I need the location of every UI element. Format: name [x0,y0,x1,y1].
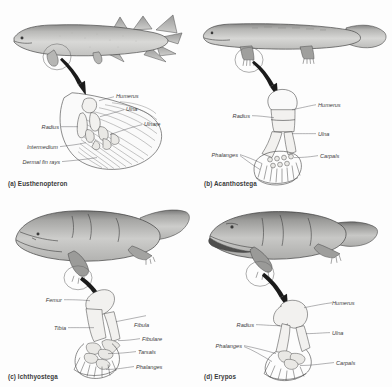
panel-b-illustration: Humerus Ulna Carpals Radius Phalanges [196,0,392,194]
label-humerus: Humerus [318,102,341,108]
erypos-body-illustration [209,211,378,279]
panel-a-caption: (a) Eusthenopteron [8,180,68,187]
label-intermedium: Intermedium [27,144,58,150]
callout-arrow-b [252,61,274,87]
label-ulnare: Ulnare [144,121,160,127]
panel-d-erypos: Humerus Ulna Carpals Radius Phalanges (d… [196,194,392,387]
panel-b-caption: (b) Acanthostega [204,180,257,187]
label-humerus: Humerus [116,93,139,99]
panel-a-illustration: Humerus Ulna Ulnare Radius Intermedium D… [0,0,196,194]
panel-c-ichthyostega: Femur Tibia Fibula Fibulare Tarsals Phal… [0,194,196,387]
label-phalanges: Phalanges [212,152,239,158]
label-humerus: Humerus [332,299,355,305]
panel-d-caption: (d) Erypos [204,373,236,380]
label-ulna: Ulna [332,329,343,335]
callout-arrow-a [60,58,82,85]
panel-c-caption: (c) Ichthyostega [8,373,58,380]
label-tarsals: Tarsals [138,348,156,354]
label-radius: Radius [42,124,60,130]
panel-c-illustration: Femur Tibia Fibula Fibulare Tarsals Phal… [0,194,196,387]
acanthostega-limb-skeleton [254,89,301,185]
panel-a-eusthenopteron: Humerus Ulna Ulnare Radius Intermedium D… [0,0,196,194]
label-ulna: Ulna [126,106,137,112]
panel-d-illustration: Humerus Ulna Carpals Radius Phalanges [196,194,392,387]
acanthostega-body-illustration [203,24,386,66]
label-dermal-fin-rays: Dermal fin rays [22,159,60,165]
ichthyostega-body-illustration [16,209,190,283]
eusthenopteron-body-illustration [14,15,182,66]
label-phalanges: Phalanges [216,342,243,348]
label-carpals: Carpals [336,359,355,365]
label-tibia: Tibia [54,324,66,330]
label-radius: Radius [233,113,251,119]
eusthenopteron-fin-skeleton [60,93,162,170]
label-ulna: Ulna [318,131,329,137]
erypos-limb-skeleton [264,300,311,380]
label-phalanges: Phalanges [136,363,163,369]
label-fibulare: Fibulare [142,335,162,341]
panel-b-acanthostega: Humerus Ulna Carpals Radius Phalanges (b… [196,0,392,194]
label-femur: Femur [46,296,63,302]
tetrapod-limb-evolution-figure: Humerus Ulna Ulnare Radius Intermedium D… [0,0,392,387]
ichthyostega-limb-skeleton [74,289,120,378]
label-radius: Radius [237,321,255,327]
label-carpals: Carpals [320,153,339,159]
label-fibula: Fibula [134,321,149,327]
